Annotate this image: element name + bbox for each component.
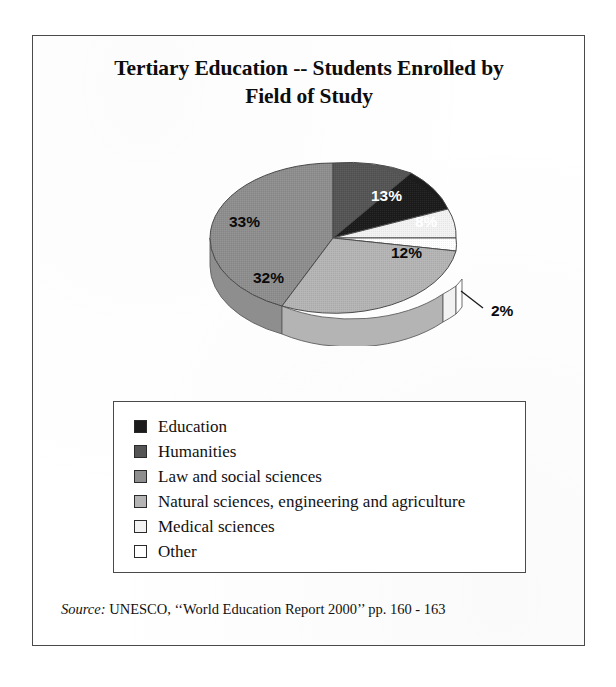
legend-swatch-natural-sciences	[134, 495, 147, 508]
legend-swatch-other	[134, 545, 147, 558]
source-prefix: Source:	[61, 601, 106, 617]
chart-title-line-2: Field of Study	[73, 82, 545, 110]
legend-item-humanities: Humanities	[134, 439, 517, 464]
chart-legend: Education Humanities Law and social scie…	[113, 401, 526, 573]
legend-item-natural-sciences: Natural sciences, engineering and agricu…	[134, 489, 517, 514]
legend-label-law-social-sciences: Law and social sciences	[158, 467, 322, 487]
pie-label-law-social-sciences: 33%	[229, 213, 260, 230]
pie-label-other: 2%	[491, 302, 514, 319]
legend-item-education: Education	[134, 414, 517, 439]
pie-label-humanities: 13%	[371, 187, 402, 204]
pie-label-natural-sciences: 32%	[253, 269, 284, 286]
legend-label-humanities: Humanities	[158, 442, 236, 462]
source-citation: UNESCO, ‘‘World Education Report 2000’’ …	[109, 601, 445, 617]
pie-chart-svg: 33% 13% 8% 12% 32% 2%	[143, 131, 533, 346]
pie-callout-leader-line	[461, 291, 483, 308]
legend-label-natural-sciences: Natural sciences, engineering and agricu…	[158, 492, 465, 512]
legend-label-medical-sciences: Medical sciences	[158, 517, 275, 537]
legend-label-education: Education	[158, 417, 227, 437]
legend-item-law-social-sciences: Law and social sciences	[134, 464, 517, 489]
legend-swatch-law-social-sciences	[134, 470, 147, 483]
pie-dither-overlay	[210, 163, 456, 313]
legend-swatch-education	[134, 420, 147, 433]
legend-item-other: Other	[134, 539, 517, 564]
pie-chart: 33% 13% 8% 12% 32% 2%	[143, 131, 533, 346]
legend-item-medical-sciences: Medical sciences	[134, 514, 517, 539]
legend-label-other: Other	[158, 542, 197, 562]
source-note: Source: UNESCO, ‘‘World Education Report…	[61, 601, 446, 618]
pie-wall-other	[456, 279, 462, 314]
legend-list: Education Humanities Law and social scie…	[134, 414, 517, 564]
pie-label-education: 8%	[415, 213, 438, 230]
figure-frame: Tertiary Education -- Students Enrolled …	[32, 35, 585, 646]
pie-wall-medical-sciences	[443, 286, 456, 322]
pie-label-medical-sciences: 12%	[391, 244, 422, 261]
legend-swatch-medical-sciences	[134, 520, 147, 533]
chart-title-line-1: Tertiary Education -- Students Enrolled …	[73, 54, 545, 82]
page-title: Tertiary Education -- Students Enrolled …	[73, 54, 545, 110]
legend-swatch-humanities	[134, 445, 147, 458]
